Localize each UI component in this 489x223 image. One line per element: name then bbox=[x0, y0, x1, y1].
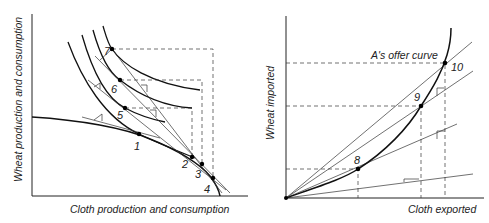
point-4 bbox=[211, 176, 215, 180]
point-2 bbox=[190, 155, 194, 159]
point-label-7: 7 bbox=[104, 45, 111, 57]
offer-curve-diagram: 1 2 3 4 5 6 7 Cloth production and consu… bbox=[0, 0, 489, 223]
right-y-axis-label: Wheat imported bbox=[264, 65, 276, 140]
point-label-1: 1 bbox=[134, 140, 140, 152]
point-10 bbox=[443, 61, 448, 66]
point-label-2: 2 bbox=[181, 158, 188, 170]
point-label-4: 4 bbox=[204, 183, 210, 195]
point-9 bbox=[419, 104, 424, 109]
point-label-5: 5 bbox=[117, 109, 124, 121]
left-y-axis-label: Wheat production and consumption bbox=[12, 17, 24, 182]
point-label-10: 10 bbox=[451, 61, 464, 73]
price-line-7b bbox=[112, 49, 222, 193]
indifference-curve-7 bbox=[103, 26, 200, 90]
right-x-axis-label: Cloth exported bbox=[408, 203, 477, 215]
left-x-axis-label: Cloth production and consumption bbox=[70, 203, 230, 215]
origin-point bbox=[284, 196, 288, 200]
left-axes bbox=[32, 14, 248, 196]
right-panel: 8 9 10 A's offer curve Cloth exported Wh… bbox=[264, 16, 484, 215]
point-label-3: 3 bbox=[195, 168, 202, 180]
point-1 bbox=[137, 132, 141, 136]
point-label-8: 8 bbox=[354, 154, 361, 166]
point-label-6: 6 bbox=[111, 83, 118, 95]
point-6 bbox=[118, 78, 122, 82]
point-label-9: 9 bbox=[414, 91, 420, 103]
left-panel: 1 2 3 4 5 6 7 Cloth production and consu… bbox=[12, 14, 248, 215]
offer-curve-label: A's offer curve bbox=[370, 49, 438, 61]
trade-triangle-6 bbox=[120, 80, 202, 164]
price-line-6 bbox=[95, 56, 230, 193]
slope-triangle-1 bbox=[94, 114, 102, 121]
slope-triangle-5 bbox=[94, 83, 100, 89]
right-axes bbox=[286, 16, 484, 198]
point-5 bbox=[123, 106, 127, 110]
price-line-5 bbox=[88, 80, 226, 190]
slope-triangle-5b bbox=[150, 110, 156, 117]
point-7 bbox=[110, 47, 114, 51]
indifference-curve-1 bbox=[68, 42, 195, 158]
point-3 bbox=[200, 162, 204, 166]
point-8 bbox=[356, 167, 361, 172]
